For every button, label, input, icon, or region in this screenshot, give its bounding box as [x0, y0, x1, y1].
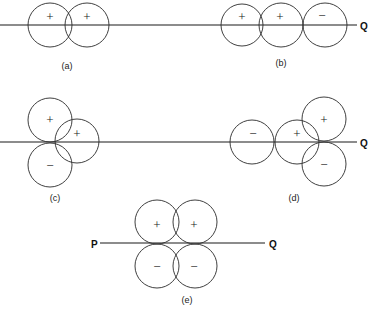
panel-a: + + (a) [0, 3, 188, 71]
sign-d-1: − [249, 126, 256, 141]
sign-c-right: + [73, 126, 80, 141]
sign-b-2: + [276, 9, 283, 24]
point-q-b: Q [360, 21, 368, 32]
sign-d-top: + [320, 112, 327, 127]
panel-label-e: (e) [182, 295, 193, 305]
panel-label-a: (a) [62, 61, 73, 71]
point-q-d: Q [360, 138, 368, 149]
sign-d-2: + [293, 126, 300, 141]
sign-e-top-right: + [190, 217, 197, 232]
point-q-e: Q [269, 239, 277, 250]
panel-c: + + − (c) [0, 98, 188, 203]
sign-b-3: − [318, 8, 325, 23]
sign-a-1: + [46, 9, 53, 24]
panel-label-b: (b) [276, 58, 287, 68]
sign-b-1: + [238, 9, 245, 24]
sign-d-bottom: − [320, 157, 327, 172]
sign-a-2: + [83, 9, 90, 24]
sign-e-bottom-right: − [190, 259, 197, 274]
orbital-overlap-diagram: + + (a) + + − Q (b) + + − (c) − + + − Q [0, 0, 376, 315]
panel-b: + + − Q (b) [188, 3, 368, 68]
point-p-e: P [91, 239, 98, 250]
sign-c-top: + [46, 112, 53, 127]
sign-e-top-left: + [153, 217, 160, 232]
sign-c-bottom: − [46, 158, 53, 173]
panel-label-c: (c) [50, 193, 61, 203]
sign-e-bottom-left: − [153, 259, 160, 274]
panel-label-d: (d) [289, 193, 300, 203]
panel-d: − + + − Q (d) [188, 97, 368, 203]
panel-e: + + − − P Q (e) [91, 200, 277, 305]
